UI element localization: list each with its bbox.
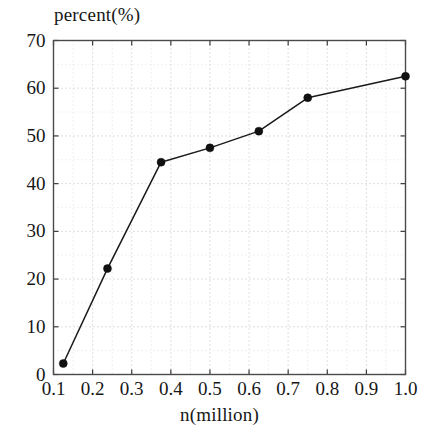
data-point [59, 360, 67, 368]
data-point [206, 144, 214, 152]
y-tick-label: 50 [27, 126, 46, 145]
data-point [304, 94, 312, 102]
chart-figure: percent(%) 010203040506070 0.10.20.30.40… [0, 0, 439, 442]
data-line [63, 76, 405, 363]
data-point [103, 265, 111, 273]
minor-gridlines [54, 41, 406, 375]
data-point [402, 72, 410, 80]
x-tick-label: 1.0 [381, 379, 431, 398]
data-point [255, 127, 263, 135]
y-tick-label: 10 [27, 317, 46, 336]
y-tick-label: 70 [27, 31, 46, 50]
y-tick-label: 40 [27, 174, 46, 193]
plot-canvas [0, 0, 439, 442]
y-tick-label: 60 [27, 78, 46, 97]
data-point [157, 158, 165, 166]
x-axis-label: n(million) [0, 404, 439, 426]
y-tick-label: 20 [27, 269, 46, 288]
y-tick-label: 30 [27, 221, 46, 240]
